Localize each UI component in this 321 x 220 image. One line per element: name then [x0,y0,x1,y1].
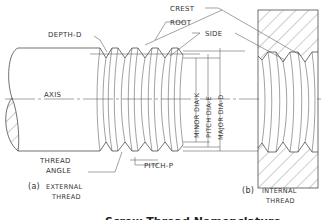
external-thread [6,48,183,151]
internal-caption-line2: THREAD [265,197,295,205]
pitch-label: PITCH-P [144,162,173,170]
side-label: SIDE [205,30,223,38]
external-caption-line1: EXTERNAL [46,183,82,191]
thread-angle-label-line2: ANGLE [46,167,71,175]
major-diameter-label: MAJOR DIA-D [217,94,225,140]
internal-caption-line1: INTERNAL [262,187,297,195]
pitch-diameter-label: PITCH DIA-E [205,96,213,138]
minor-diameter-label: MINOR DIA-K [193,92,201,138]
root-label: ROOT [170,19,192,27]
thread-angle-label-line1: THREAD [39,157,71,165]
internal-prefix: (b) [242,186,254,195]
depth-label: DEPTH-D [48,31,82,39]
crest-label: CREST [170,5,195,13]
figure-caption: Screw Thread Nomenclature [105,215,281,220]
external-caption-line2: THREAD [51,193,81,201]
external-prefix: (a) [28,182,40,191]
internal-thread [258,10,318,188]
axis-label: AXIS [44,91,62,99]
thread-nomenclature-diagram: MINOR DIA-K PITCH DIA-E MAJOR DIA-D DEPT… [0,0,321,220]
